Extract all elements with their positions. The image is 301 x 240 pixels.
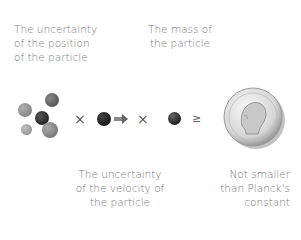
arrow-right-icon — [114, 114, 128, 124]
label-line: The uncertainty — [14, 22, 97, 36]
label-line: The uncertainty — [70, 167, 170, 181]
label-line: than Planck's — [215, 181, 290, 195]
times-operator: × — [74, 112, 86, 126]
label-line: Not smaller — [215, 167, 290, 181]
label-line: The mass of — [145, 22, 215, 36]
mass-particle-icon — [168, 112, 181, 125]
label-line: of the particle — [14, 50, 97, 64]
times-operator: × — [137, 112, 149, 126]
particle-ball — [21, 124, 32, 135]
label-mass: The mass of the particle — [145, 22, 215, 50]
label-planck-constant: Not smaller than Planck's constant — [215, 167, 290, 209]
label-velocity-uncertainty: The uncertainty of the velocity of the p… — [70, 167, 170, 209]
particle-ball — [45, 93, 59, 107]
label-position-uncertainty: The uncertainty of the position of the p… — [14, 22, 97, 64]
label-line: of the position — [14, 36, 97, 50]
label-line: the particle — [70, 195, 170, 209]
label-line: the particle — [145, 36, 215, 50]
particle-ball — [42, 122, 58, 138]
label-line: of the velocity of — [70, 181, 170, 195]
label-line: constant — [215, 195, 290, 209]
greater-equal-operator: ≥ — [192, 112, 201, 126]
coin-icon — [222, 86, 286, 150]
particle-ball — [18, 103, 32, 117]
moving-particle-icon — [97, 112, 111, 126]
